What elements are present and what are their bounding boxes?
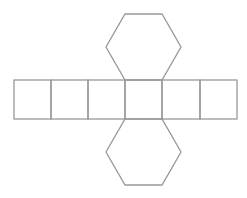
bottom-hexagon: [106, 119, 181, 185]
hexagonal-prism-net: [0, 0, 247, 198]
rectangle-face-1: [14, 80, 51, 119]
rectangle-face-4: [125, 80, 162, 119]
rectangle-face-3: [88, 80, 125, 119]
rectangle-face-2: [51, 80, 88, 119]
rectangle-face-5: [162, 80, 200, 119]
top-hexagon: [106, 14, 181, 80]
rectangle-face-6: [200, 80, 237, 119]
